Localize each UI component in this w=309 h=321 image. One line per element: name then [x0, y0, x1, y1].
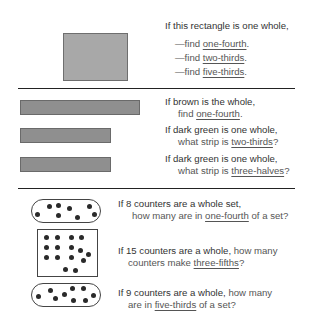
dark-green-strip-1: [20, 128, 111, 143]
counter: [36, 294, 41, 299]
counter: [75, 215, 80, 220]
counter: [56, 203, 61, 208]
counter: [69, 235, 74, 240]
counter: [73, 268, 78, 273]
counter: [81, 286, 86, 291]
divider-1: [18, 88, 295, 89]
counter: [48, 288, 53, 293]
counter: [86, 252, 91, 257]
fraction-term: two-thirds: [231, 136, 273, 147]
section1-item-3: —find five-thirds.: [175, 66, 247, 78]
section2-q1-line2: find one-fourth.: [178, 108, 243, 120]
fraction-term: three-halves: [231, 165, 284, 176]
counter: [44, 245, 49, 250]
fraction-term: one-fourth: [203, 38, 247, 49]
dark-green-strip-2: [20, 157, 111, 172]
counter-set-9: [31, 283, 101, 307]
section1-item-1: —find one-fourth.: [175, 38, 249, 50]
counter: [47, 204, 52, 209]
section2-q3-line1: If dark green is one whole,: [165, 153, 278, 165]
section1-item-2: —find two-thirds.: [175, 52, 247, 64]
counter: [83, 298, 88, 303]
counter: [91, 293, 96, 298]
fraction-term: five-thirds: [155, 299, 197, 310]
section3-q1-line1: If 8 counters are a whole set,: [118, 198, 241, 210]
counter: [55, 245, 60, 250]
counter: [55, 235, 60, 240]
counter: [63, 267, 68, 272]
counter-set-15: [37, 229, 98, 277]
counter: [56, 213, 61, 218]
counter: [87, 204, 92, 209]
divider-2: [18, 188, 295, 189]
fraction-term: one-fourth: [205, 210, 249, 221]
counter: [70, 286, 75, 291]
section3-q3-line2: are in five-thirds of a set?: [128, 299, 236, 311]
section2-q2-line2: what strip is two-thirds?: [178, 136, 278, 148]
section2-q2-line1: If dark green is one whole,: [165, 124, 278, 136]
counter: [44, 235, 49, 240]
section2-q1-line1: If brown is the whole,: [165, 96, 255, 108]
counter: [79, 235, 84, 240]
section3-q1-line2: how many are in one-fourth of a set?: [132, 210, 288, 222]
section3-q3-line1: If 9 counters are a whole, how many: [118, 287, 272, 299]
section2-q3-line2: what strip is three-halves?: [178, 165, 289, 177]
counter-set-8: [31, 199, 101, 223]
counter: [69, 255, 74, 260]
fraction-term: one-fourth: [196, 108, 240, 119]
fraction-term: three-fifths: [194, 257, 239, 268]
fraction-term: five-thirds: [203, 66, 245, 77]
counter: [92, 212, 97, 217]
fraction-term: two-thirds: [203, 52, 245, 63]
section1-prompt: If this rectangle is one whole,: [165, 20, 289, 32]
counter: [44, 255, 49, 260]
counter: [67, 206, 72, 211]
counter: [35, 212, 40, 217]
section3-q2-line2: counters make three-fifths?: [128, 257, 244, 269]
counter: [55, 255, 60, 260]
brown-strip: [20, 100, 140, 115]
whole-rectangle: [63, 33, 128, 81]
counter: [81, 258, 86, 263]
counter: [62, 292, 67, 297]
counter: [69, 245, 74, 250]
counter: [78, 248, 83, 253]
counter: [71, 298, 76, 303]
counter: [53, 296, 58, 301]
section3-q2-line1: If 15 counters are a whole, how many: [118, 245, 277, 257]
